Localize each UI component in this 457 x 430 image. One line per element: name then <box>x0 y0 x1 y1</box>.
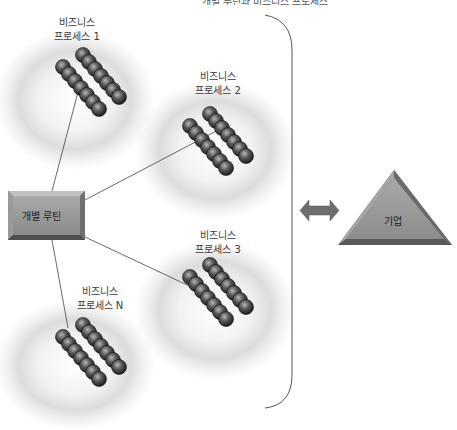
process-n-balls <box>56 318 127 387</box>
process-2-balls <box>183 107 254 176</box>
double-arrow-icon <box>300 200 339 221</box>
process-n-label: 비즈니스 프로세스 N <box>55 285 145 313</box>
process-n-line2: 프로세스 N <box>55 299 145 313</box>
enterprise-triangle-shape <box>338 170 452 245</box>
routine-box-label: 개별 루틴 <box>22 208 61 223</box>
process-2-line2: 프로세스 2 <box>173 84 263 98</box>
enterprise-label: 기업 <box>384 213 402 228</box>
process-3-line1: 비즈니스 <box>173 229 263 243</box>
process-3-line2: 프로세스 3 <box>173 243 263 257</box>
process-2-line1: 비즈니스 <box>173 70 263 84</box>
process-3-balls <box>183 258 254 327</box>
right-brace-icon <box>265 15 292 408</box>
process-1-label: 비즈니스 프로세스 1 <box>32 16 122 44</box>
process-n-line1: 비즈니스 <box>55 285 145 299</box>
process-3-label: 비즈니스 프로세스 3 <box>173 229 263 257</box>
process-2-label: 비즈니스 프로세스 2 <box>173 70 263 98</box>
process-1-line2: 프로세스 1 <box>32 30 122 44</box>
process-1-balls <box>56 48 127 117</box>
process-1-line1: 비즈니스 <box>32 16 122 30</box>
